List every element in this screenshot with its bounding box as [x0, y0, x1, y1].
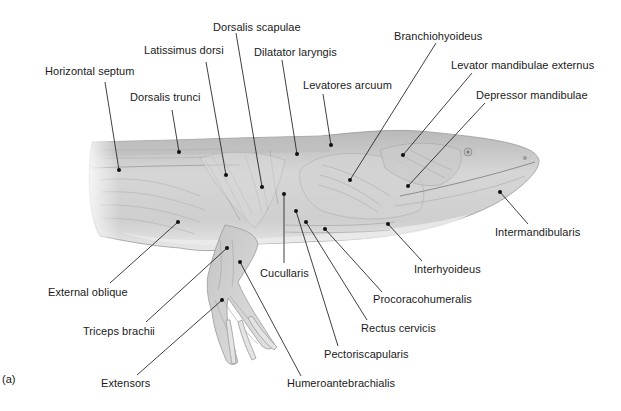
forelimb [207, 225, 277, 364]
label-humeroantebrachialis: Humeroantebrachialis [287, 377, 395, 390]
label-dorsalis-trunci: Dorsalis trunci [130, 91, 200, 104]
label-extensors: Extensors [101, 377, 150, 390]
label-levatores-arcuum: Levatores arcuum [303, 79, 392, 92]
label-rectus-cervicis: Rectus cervicis [361, 322, 436, 335]
label-horizontal-septum: Horizontal septum [45, 65, 135, 78]
panel-label: (a) [2, 373, 15, 385]
label-intermandibularis: Intermandibularis [495, 226, 580, 239]
label-branchiohyoideus: Branchiohyoideus [394, 30, 482, 43]
label-depressor-mandibulae: Depressor mandibulae [476, 89, 588, 102]
label-interhyoideus: Interhyoideus [414, 263, 481, 276]
label-levator-mandibulae-externus: Levator mandibulae externus [451, 59, 594, 72]
label-dorsalis-scapulae: Dorsalis scapulae [213, 21, 301, 34]
anatomy-figure: Horizontal septum Dorsalis trunci Latiss… [0, 0, 621, 411]
body-silhouette [80, 130, 539, 251]
label-dilatator-laryngis: Dilatator laryngis [254, 46, 337, 59]
label-cucullaris: Cucullaris [260, 267, 309, 280]
label-external-oblique: External oblique [48, 286, 128, 299]
label-triceps-brachii: Triceps brachii [83, 325, 155, 338]
label-pectoriscapularis: Pectoriscapularis [324, 348, 409, 361]
label-procoracohumeralis: Procoracohumeralis [373, 293, 472, 306]
label-latissimus-dorsi: Latissimus dorsi [144, 44, 224, 57]
